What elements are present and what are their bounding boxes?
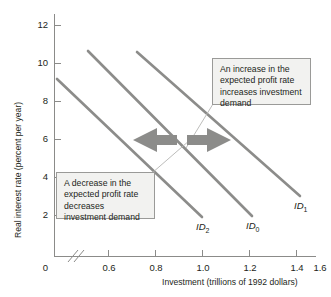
x-tick-label-1-6: 1.6: [300, 262, 331, 273]
y-tick-label-10: 10: [18, 57, 48, 68]
curve-label-id2-sub: 2: [206, 227, 210, 234]
curve-label-id0-sub: 0: [256, 226, 260, 233]
curve-label-id1: ID1: [294, 200, 308, 213]
increase-callout-box: An increase in the expected profit rate …: [212, 58, 311, 105]
x-tick-marks: [109, 250, 297, 257]
curve-label-id2-text: ID: [196, 221, 206, 232]
y-tick-label-12: 12: [18, 19, 48, 30]
rightward-shift-arrow: [187, 128, 231, 152]
decrease-callout-box: A decrease in the expected profit rate d…: [56, 172, 155, 219]
curve-label-id0-text: ID: [246, 220, 256, 231]
x-tick-label-0-6: 0.6: [89, 262, 129, 273]
x-tick-label-1-2: 1.2: [230, 262, 270, 273]
x-tick-label-1-0: 1.0: [183, 262, 223, 273]
x-axis-title: Investment (trillions of 1992 dollars): [162, 277, 298, 287]
curve-label-id1-sub: 1: [304, 206, 308, 213]
leftward-shift-arrow: [133, 128, 177, 152]
x-tick-label-0-8: 0.8: [136, 262, 176, 273]
curve-label-id0: ID0: [246, 220, 260, 233]
curve-label-id1-text: ID: [294, 200, 304, 211]
y-axis-title: Real interest rate (percent per year): [13, 102, 23, 238]
curve-label-id2: ID2: [196, 221, 210, 234]
y-tick-label-0: 0: [18, 262, 48, 273]
